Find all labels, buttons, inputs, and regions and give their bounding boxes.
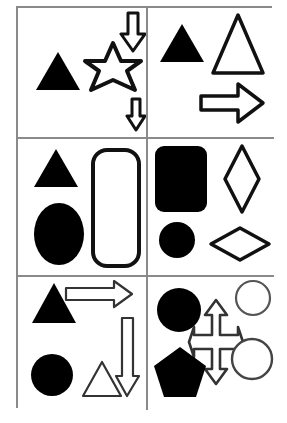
down-arrow-outline-icon [118,10,148,54]
down-arrow-outline-small-icon [124,96,148,133]
grid-cell-top-left[interactable] [18,8,148,139]
circle-solid-icon [158,221,196,259]
grid-cell-bottom-left[interactable] [18,277,148,410]
pentagon-solid-icon [152,345,208,399]
rounded-rectangle-outline-icon [90,147,142,269]
triangle-solid-icon [158,22,206,64]
grid-cell-top-right[interactable] [148,8,274,139]
shape-grid [16,6,272,408]
rounded-square-solid-icon [154,145,208,213]
circle-outline-icon [230,337,274,381]
triangle-outline-icon [210,12,266,76]
diamond-tall-outline-icon [222,143,262,215]
circle-outline-icon [234,279,272,317]
figure-canvas [0,0,287,423]
triangle-solid-icon [34,50,82,92]
down-arrow-outline-long-icon [114,315,142,399]
circle-solid-icon [30,353,74,397]
right-arrow-outline-icon [198,80,266,126]
ellipse-solid-icon [32,201,86,267]
diamond-wide-outline-icon [208,225,272,263]
grid-cell-middle-left[interactable] [18,139,148,277]
grid-cell-bottom-right[interactable] [148,277,274,410]
right-arrow-outline-icon [64,279,134,309]
grid-cell-middle-right[interactable] [148,139,274,277]
triangle-solid-icon [32,147,80,189]
